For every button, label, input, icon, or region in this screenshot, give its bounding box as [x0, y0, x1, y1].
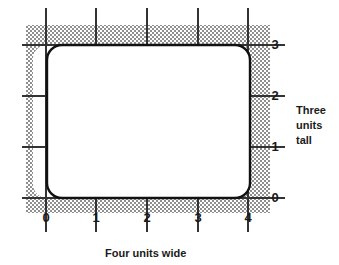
height-caption-line-1: Three	[296, 103, 326, 118]
diagram-figure: 3 2 1 0 0 1 2 3 4 Three units tall Four …	[0, 0, 339, 265]
y-tick-label-0: 0	[268, 191, 282, 204]
x-tick-label-1: 1	[89, 211, 103, 224]
height-caption-line-3: tall	[296, 133, 326, 148]
x-tick-label-2: 2	[140, 211, 154, 224]
x-tick-label-4: 4	[241, 211, 255, 224]
width-caption: Four units wide	[105, 247, 186, 259]
x-tick-label-0: 0	[39, 211, 53, 224]
height-caption-line-2: units	[296, 118, 326, 133]
y-tick-label-3: 3	[268, 38, 282, 51]
y-tick-label-1: 1	[268, 140, 282, 153]
x-tick-label-3: 3	[191, 211, 205, 224]
rounded-rectangle-shape	[47, 45, 250, 198]
y-tick-label-2: 2	[268, 89, 282, 102]
diagram-canvas	[0, 0, 339, 265]
height-caption: Three units tall	[296, 103, 326, 148]
